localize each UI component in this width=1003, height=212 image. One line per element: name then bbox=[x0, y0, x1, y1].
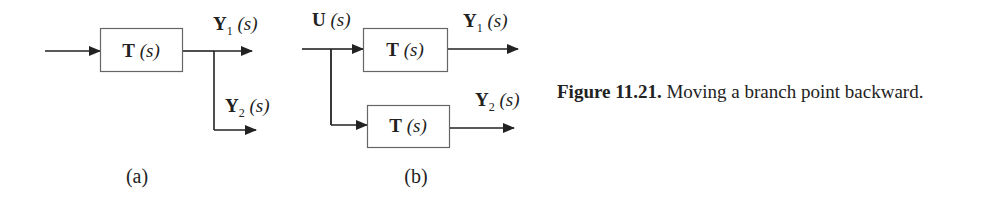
output1-label-a: Y1 (s) bbox=[213, 13, 258, 38]
sublabel-b: (b) bbox=[404, 165, 427, 188]
output1-label-b: Y1 (s) bbox=[463, 10, 508, 35]
input-label-b: U (s) bbox=[312, 9, 351, 31]
block-t-b1-label: T (s) bbox=[386, 39, 424, 61]
figure-number: Figure 11.21. bbox=[557, 81, 662, 102]
caption-text: Moving a branch point backward. bbox=[666, 81, 923, 102]
block-t-b2-label: T (s) bbox=[389, 115, 427, 137]
sublabel-a: (a) bbox=[126, 165, 148, 188]
block-diagrams: T (s) Y1 (s) Y2 (s) (a) U (s) T (s) T (s… bbox=[0, 0, 560, 212]
figure-caption: Figure 11.21. Moving a branch point back… bbox=[557, 78, 975, 105]
diagram-b: U (s) T (s) T (s) Y1 (s) Y2 (s) (b) bbox=[302, 9, 520, 188]
diagram-a: T (s) Y1 (s) Y2 (s) (a) bbox=[45, 13, 270, 188]
block-t-a-label: T (s) bbox=[122, 40, 160, 62]
output2-label-b: Y2 (s) bbox=[475, 89, 520, 114]
output2-label-a: Y2 (s) bbox=[225, 95, 270, 120]
